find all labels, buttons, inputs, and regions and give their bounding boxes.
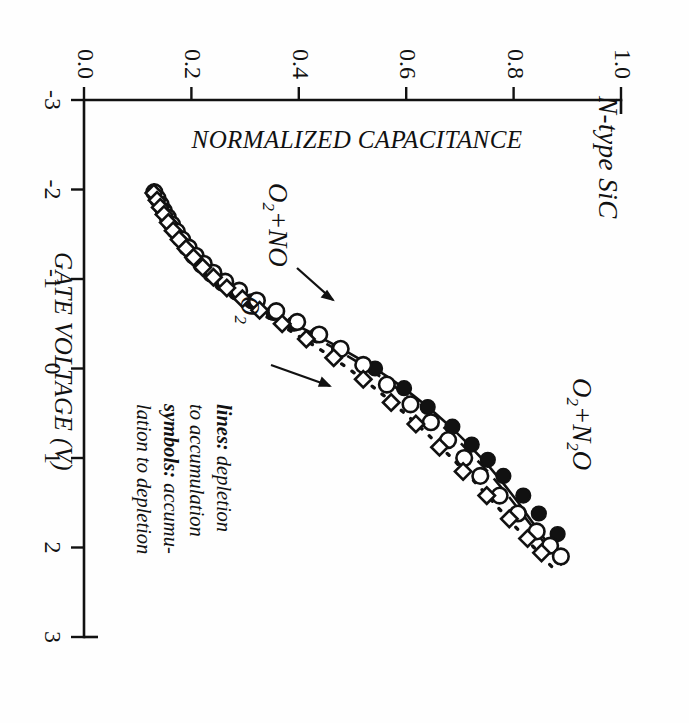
x-tick-label: 2: [39, 518, 66, 578]
y-axis-title: NORMALIZED CAPACITANCE: [77, 126, 637, 154]
x-tick-label: -1: [39, 249, 66, 309]
data-point: [553, 549, 569, 565]
x-tick-label: 0: [39, 339, 66, 399]
figure-screenshot: GATE VOLTAGE (V) NORMALIZED CAPACITANCE …: [0, 0, 689, 723]
series-label-o2: O2: [230, 296, 265, 324]
y-tick-label: 0.2: [179, 9, 206, 79]
y-tick-label: 0.0: [72, 9, 99, 79]
data-point: [379, 377, 395, 393]
x-tick-label: 3: [39, 607, 66, 667]
legend-line-1: lines: depletion: [210, 404, 237, 554]
y-tick-label: 1.0: [609, 9, 636, 79]
data-point: [516, 488, 531, 503]
cv-plot-canvas: [0, 0, 689, 723]
data-point: [423, 414, 439, 430]
data-point: [531, 506, 546, 521]
rotated-figure-container: GATE VOLTAGE (V) NORMALIZED CAPACITANCE …: [0, 0, 689, 723]
series-label-o2-n2o: O2+N2O: [562, 378, 597, 470]
sample-label: N-type SiC: [592, 96, 623, 219]
x-tick-label: 1: [39, 428, 66, 488]
data-point: [397, 381, 412, 396]
legend-note: lines: depletion to accumulation symbols…: [130, 404, 237, 554]
y-tick-label: 0.6: [394, 9, 421, 79]
data-point: [420, 400, 435, 415]
data-point: [480, 452, 495, 467]
y-tick-label: 0.4: [287, 9, 314, 79]
legend-line-2: to accumulation: [184, 404, 211, 554]
series-label-o2-no: O2+NO: [258, 183, 293, 267]
data-point: [496, 469, 511, 484]
x-tick-label: -2: [39, 160, 66, 220]
data-point: [473, 468, 489, 484]
legend-line-3: symbols: accumu-: [157, 404, 184, 554]
data-point: [289, 314, 305, 330]
cv-plot-figure: GATE VOLTAGE (V) NORMALIZED CAPACITANCE …: [0, 0, 689, 723]
x-tick-label: -3: [39, 70, 66, 130]
data-point: [403, 397, 419, 413]
legend-line-4: lation to depletion: [130, 404, 157, 554]
y-tick-label: 0.8: [502, 9, 529, 79]
